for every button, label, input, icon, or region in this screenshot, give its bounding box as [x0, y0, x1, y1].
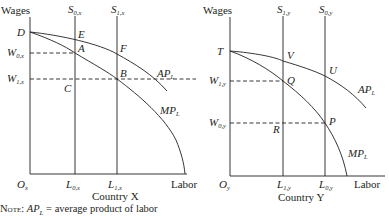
x-wage1-label: W1,x	[7, 72, 24, 85]
point-c: C	[64, 82, 72, 94]
note-term: AP	[27, 203, 40, 214]
x-panel-title: Country X	[92, 190, 139, 202]
note-prefix: Note:	[0, 203, 24, 214]
y-origin-label: Oy	[219, 178, 230, 191]
point-q: Q	[287, 74, 295, 86]
note-definition: = average product of labor	[43, 203, 157, 214]
point-p: P	[328, 115, 336, 127]
point-b: B	[120, 67, 127, 79]
figure-note: Note: APL = average product of labor	[0, 203, 158, 216]
y-x-axis-label: Labor	[354, 178, 381, 190]
labor-migration-diagram: Wages S0,x S1,x D E A F B C W0,x W1,x AP…	[0, 0, 389, 216]
point-r: R	[272, 123, 280, 135]
x-wage0-label: W0,x	[7, 46, 24, 59]
x-mp-curve-label: MPL	[159, 104, 180, 117]
y-mp-curve-label: MPL	[347, 147, 368, 160]
point-v: V	[287, 49, 295, 61]
y-wage1-label: W1,y	[209, 74, 226, 87]
point-t: T	[217, 45, 224, 57]
y-labor0-label: L0,y	[318, 178, 333, 191]
y-labor1-label: L1,y	[276, 178, 291, 191]
x-origin-label: Ox	[17, 178, 28, 191]
x-supply1-label: S1,x	[111, 3, 124, 16]
x-ap-curve-label: APL	[156, 67, 174, 80]
x-x-axis-label: Labor	[171, 178, 198, 190]
y-panel-title: Country Y	[278, 191, 324, 203]
y-panel-y-axis-label: Wages	[203, 4, 232, 16]
x-panel-ap-curve	[30, 32, 167, 91]
point-e: E	[77, 28, 85, 40]
y-wage0-label: W0,y	[209, 116, 226, 129]
y-ap-curve-label: APL	[357, 83, 375, 96]
y-supply0-label: S0,y	[319, 3, 332, 16]
point-a: A	[77, 42, 85, 54]
x-supply0-label: S0,x	[68, 3, 81, 16]
point-d: D	[16, 26, 25, 38]
point-u: U	[329, 64, 338, 76]
x-panel-y-axis-label: Wages	[1, 4, 30, 16]
point-f: F	[119, 42, 127, 54]
y-supply1-label: S1,y	[277, 3, 290, 16]
x-labor0-label: L0,x	[65, 178, 80, 191]
